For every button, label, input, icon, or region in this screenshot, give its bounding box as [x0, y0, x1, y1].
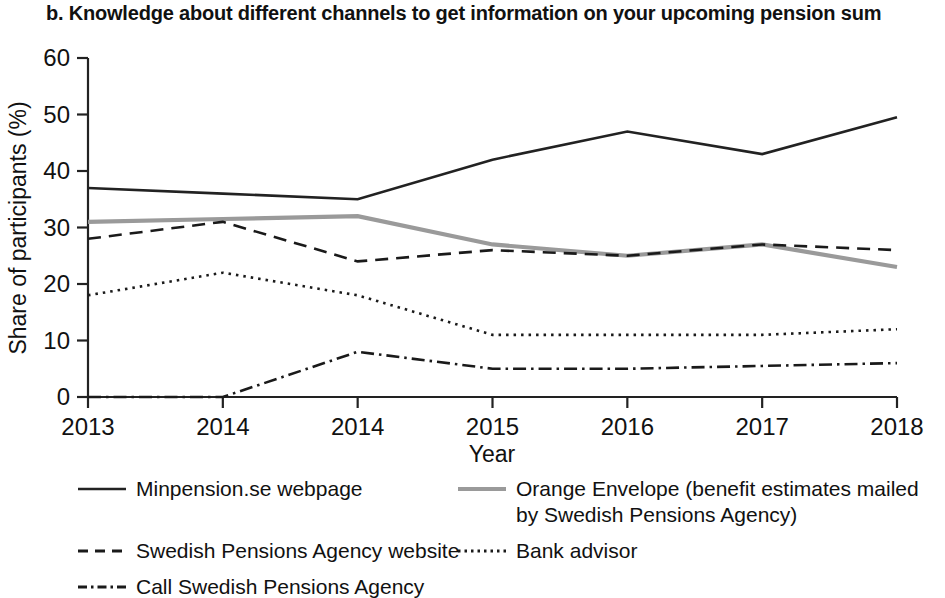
x-tick-label: 2014 — [331, 413, 384, 440]
y-axis-title: Share of participants (%) — [5, 101, 31, 354]
legend-swatch-solid-black-icon — [78, 478, 126, 500]
legend-swatch-dashed-icon — [78, 540, 126, 562]
y-tick-label: 30 — [43, 214, 70, 241]
y-tick-label: 40 — [43, 157, 70, 184]
legend-item-bank-advisor[interactable]: Bank advisor — [458, 538, 637, 564]
legend-swatch-dashdot-icon — [78, 576, 126, 598]
x-axis-title: Year — [469, 441, 516, 467]
x-tick-label: 2018 — [870, 413, 923, 440]
series-line-2 — [88, 222, 897, 262]
y-tick-label: 60 — [43, 44, 70, 71]
figure-panel-b: b. Knowledge about different channels to… — [0, 0, 945, 598]
y-axis: 0102030405060 Share of participants (%) — [5, 44, 88, 410]
series-line-4 — [88, 352, 897, 397]
legend-swatch-dotted-icon — [458, 540, 506, 562]
x-axis: 2013201420142015201620172018 Year — [61, 397, 923, 467]
chart-legend: Minpension.se webpage Orange Envelope (b… — [78, 476, 938, 596]
x-axis-ticks: 2013201420142015201620172018 — [61, 397, 923, 440]
legend-label-bank-advisor: Bank advisor — [516, 538, 637, 564]
legend-item-minpension[interactable]: Minpension.se webpage — [78, 476, 363, 502]
legend-swatch-solid-gray-icon — [458, 478, 506, 500]
y-tick-label: 50 — [43, 101, 70, 128]
series-line-1 — [88, 216, 897, 267]
y-tick-label: 20 — [43, 270, 70, 297]
y-tick-label: 0 — [57, 383, 70, 410]
legend-label-call-agency: Call Swedish Pensions Agency — [136, 574, 424, 598]
legend-label-agency-website: Swedish Pensions Agency website — [136, 538, 459, 564]
x-tick-label: 2013 — [61, 413, 114, 440]
x-tick-label: 2017 — [735, 413, 788, 440]
line-chart-plot: 0102030405060 Share of participants (%) … — [0, 0, 945, 470]
legend-item-agency-website[interactable]: Swedish Pensions Agency website — [78, 538, 459, 564]
legend-item-call-agency[interactable]: Call Swedish Pensions Agency — [78, 574, 424, 598]
x-tick-label: 2015 — [466, 413, 519, 440]
legend-label-minpension: Minpension.se webpage — [136, 476, 363, 502]
legend-label-orange-envelope: Orange Envelope (benefit estimates maile… — [516, 476, 919, 528]
data-series-group — [88, 117, 897, 397]
legend-item-orange-envelope[interactable]: Orange Envelope (benefit estimates maile… — [458, 476, 919, 528]
y-tick-label: 10 — [43, 327, 70, 354]
series-line-3 — [88, 273, 897, 335]
x-tick-label: 2014 — [196, 413, 249, 440]
y-axis-ticks: 0102030405060 — [43, 44, 88, 410]
x-tick-label: 2016 — [601, 413, 654, 440]
series-line-0 — [88, 117, 897, 199]
